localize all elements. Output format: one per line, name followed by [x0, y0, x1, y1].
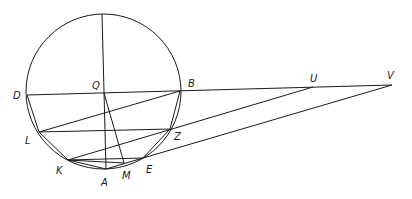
inscribed-polygon	[27, 91, 180, 169]
line-top-A	[102, 14, 106, 169]
label-D: D	[13, 90, 21, 101]
label-M: M	[122, 170, 131, 181]
line-Q-M	[104, 93, 124, 163]
line-L-B	[39, 91, 180, 132]
label-B: B	[188, 78, 195, 89]
label-E: E	[146, 164, 153, 175]
label-Z: Z	[173, 131, 182, 142]
line-E-V	[143, 85, 392, 158]
label-K: K	[56, 165, 64, 176]
label-L: L	[25, 135, 31, 146]
label-Q: Q	[92, 80, 100, 91]
line-D-V	[27, 85, 392, 95]
label-U: U	[310, 73, 318, 84]
geometry-diagram: D Q B U V L Z K A M E	[0, 0, 412, 199]
label-V: V	[387, 70, 395, 81]
label-A: A	[100, 177, 108, 188]
